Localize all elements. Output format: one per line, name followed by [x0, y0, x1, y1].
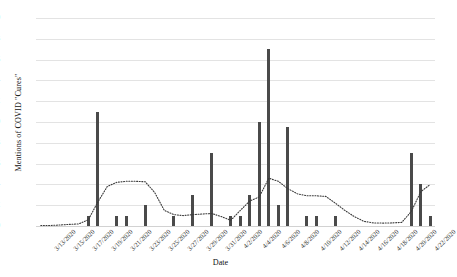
x-axis-tick-label: 4/4/2020: [261, 228, 283, 250]
x-axis-tick-label: 4/8/2020: [299, 228, 321, 250]
trend-line: [36, 18, 435, 226]
x-axis-tick-label: 4/6/2020: [280, 228, 302, 250]
plot-area: [36, 18, 435, 226]
x-axis-title: Date: [0, 258, 441, 267]
